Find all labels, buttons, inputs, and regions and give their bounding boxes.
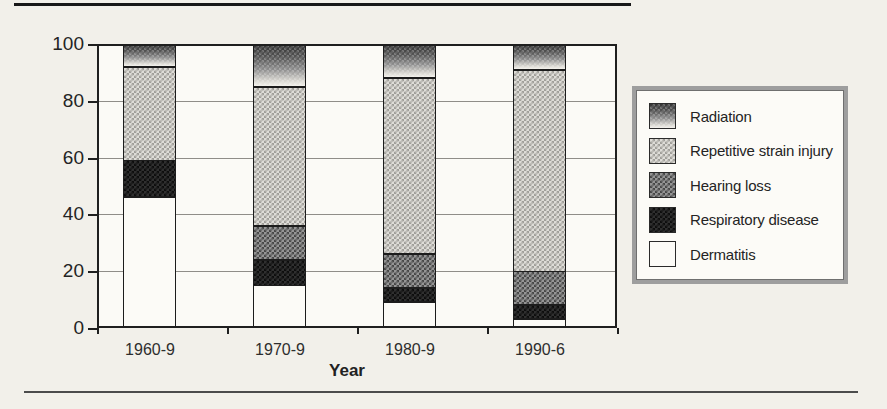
y-tick-label-60: 60: [28, 147, 84, 169]
bar-segment-dermatitis: [513, 319, 566, 328]
bar-segment-hearing: [253, 226, 306, 260]
y-tick-20: [88, 271, 97, 273]
bar-segment-dermatitis: [253, 285, 306, 328]
y-tick-label-20: 20: [28, 260, 84, 282]
y-tick-label-80: 80: [28, 90, 84, 112]
bar-segment-radiation: [123, 44, 176, 67]
x-tick-1: [227, 328, 229, 334]
x-axis-title: Year: [97, 361, 597, 381]
legend-item-radiation: Radiation: [649, 103, 836, 129]
bar-segment-dermatitis: [383, 302, 436, 328]
legend: RadiationRepetitive strain injuryHearing…: [632, 86, 848, 284]
y-tick-60: [88, 158, 97, 160]
legend-item-hearing: Hearing loss: [649, 172, 836, 198]
top-rule: [14, 3, 631, 6]
bottom-rule: [24, 391, 858, 393]
x-tick-0: [97, 328, 99, 334]
radiation-swatch-icon: [649, 103, 676, 129]
bar-segment-rsi: [253, 87, 306, 226]
legend-label-dermatitis: Dermatitis: [690, 246, 756, 263]
x-tick-2: [357, 328, 359, 334]
bar-segment-radiation: [253, 44, 306, 87]
rsi-swatch-icon: [649, 138, 676, 164]
bar-segment-hearing: [383, 254, 436, 288]
legend-label-radiation: Radiation: [690, 108, 752, 125]
bar-segment-respiratory: [513, 305, 566, 319]
bar-segment-respiratory: [253, 260, 306, 286]
hearing-swatch-icon: [649, 172, 676, 198]
respiratory-swatch-icon: [649, 207, 676, 233]
legend-item-respiratory: Respiratory disease: [649, 207, 836, 233]
x-tick-4: [617, 328, 619, 334]
bar-segment-rsi: [383, 78, 436, 254]
bar-segment-radiation: [383, 44, 436, 78]
x-tick-label-1990-6: 1990-6: [475, 340, 605, 360]
y-tick-0: [88, 328, 97, 330]
bar-segment-respiratory: [383, 288, 436, 302]
y-tick-label-40: 40: [28, 203, 84, 225]
bar-segment-dermatitis: [123, 197, 176, 328]
legend-label-respiratory: Respiratory disease: [690, 211, 819, 228]
dermatitis-swatch-icon: [649, 241, 676, 267]
bar-segment-hearing: [513, 271, 566, 305]
x-tick-label-1960-9: 1960-9: [85, 340, 215, 360]
x-tick-3: [487, 328, 489, 334]
x-tick-label-1980-9: 1980-9: [345, 340, 475, 360]
y-tick-label-0: 0: [28, 317, 84, 339]
legend-label-hearing: Hearing loss: [690, 177, 771, 194]
y-tick-label-100: 100: [28, 33, 84, 55]
y-tick-80: [88, 101, 97, 103]
y-tick-40: [88, 214, 97, 216]
legend-item-dermatitis: Dermatitis: [649, 241, 836, 267]
bar-segment-rsi: [123, 67, 176, 161]
bar-segment-rsi: [513, 70, 566, 272]
y-tick-100: [88, 44, 97, 46]
x-tick-label-1970-9: 1970-9: [215, 340, 345, 360]
scanned-figure-page: 020406080100 1960-91970-91980-91990-6 Ye…: [0, 0, 887, 409]
bar-segment-radiation: [513, 44, 566, 70]
bar-segment-respiratory: [123, 160, 176, 197]
legend-label-rsi: Repetitive strain injury: [690, 142, 833, 159]
legend-item-rsi: Repetitive strain injury: [649, 138, 836, 164]
